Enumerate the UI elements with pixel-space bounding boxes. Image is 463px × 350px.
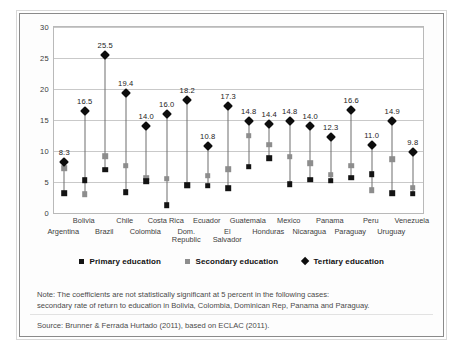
primary-marker bbox=[307, 177, 313, 183]
tertiary-marker bbox=[141, 121, 151, 131]
square-black-icon bbox=[79, 259, 85, 265]
y-tick-label-20: 20 bbox=[40, 85, 49, 94]
gridline-30 bbox=[54, 27, 423, 28]
x-label-mexico: Mexico bbox=[277, 217, 300, 225]
x-label-paraguay: Paraguay bbox=[334, 228, 366, 236]
tertiary-marker bbox=[408, 147, 418, 157]
data-label-tertiary: 14.0 bbox=[302, 112, 318, 121]
data-label-tertiary: 16.6 bbox=[343, 96, 359, 105]
secondary-marker bbox=[82, 192, 88, 198]
data-label-tertiary: 10.8 bbox=[200, 132, 216, 141]
data-label-tertiary: 11.0 bbox=[364, 131, 379, 140]
tertiary-marker bbox=[203, 141, 213, 151]
tertiary-marker bbox=[305, 121, 315, 131]
y-tick-label-30: 30 bbox=[40, 23, 49, 32]
data-label-tertiary: 25.5 bbox=[97, 41, 113, 50]
gridline-25 bbox=[54, 58, 423, 59]
secondary-marker bbox=[389, 156, 395, 162]
chart-source: Source: Brunner & Ferrada Hurtado (2011)… bbox=[37, 320, 429, 331]
tertiary-marker bbox=[223, 101, 233, 111]
x-label-honduras: Honduras bbox=[252, 228, 284, 236]
primary-marker bbox=[369, 171, 375, 177]
stem-line bbox=[125, 93, 126, 192]
stem-line bbox=[146, 126, 147, 181]
primary-marker bbox=[61, 190, 67, 196]
legend-label: Tertiary education bbox=[313, 257, 384, 266]
primary-marker bbox=[266, 156, 272, 162]
stem-line bbox=[207, 146, 208, 186]
x-label-guatemala: Guatemala bbox=[230, 217, 266, 225]
tertiary-marker bbox=[326, 132, 336, 142]
y-tick-label-0: 0 bbox=[45, 209, 49, 218]
primary-marker bbox=[123, 189, 129, 195]
stem-line bbox=[310, 126, 311, 179]
x-label-el-salvador: El Salvador bbox=[210, 228, 244, 245]
data-label-tertiary: 16.5 bbox=[77, 97, 93, 106]
legend-item[interactable]: Primary education bbox=[79, 257, 161, 266]
square-gray-icon bbox=[185, 259, 191, 265]
tertiary-marker bbox=[80, 106, 90, 116]
data-label-tertiary: 14.8 bbox=[282, 107, 298, 116]
legend-item[interactable]: Secondary education bbox=[185, 257, 278, 266]
secondary-marker bbox=[348, 163, 354, 169]
tertiary-marker bbox=[244, 116, 254, 126]
y-tick-label-10: 10 bbox=[40, 147, 49, 156]
y-tick-label-25: 25 bbox=[40, 54, 49, 63]
secondary-marker bbox=[328, 172, 334, 178]
primary-marker bbox=[389, 190, 395, 196]
tertiary-marker bbox=[387, 116, 397, 126]
primary-marker bbox=[328, 178, 334, 184]
stem-line bbox=[371, 145, 372, 190]
stem-line bbox=[187, 100, 188, 185]
primary-marker bbox=[143, 179, 149, 185]
stem-line bbox=[248, 121, 249, 166]
secondary-marker bbox=[225, 166, 231, 172]
x-label-bolivia: Bolivia bbox=[73, 217, 95, 225]
primary-marker bbox=[184, 182, 190, 188]
secondary-marker bbox=[287, 154, 293, 160]
secondary-marker bbox=[307, 161, 313, 167]
x-label-uruguay: Uruguay bbox=[377, 228, 405, 236]
note-line-2: secondary rate of return to education in… bbox=[37, 300, 429, 311]
tertiary-marker bbox=[367, 140, 377, 150]
data-label-tertiary: 8.3 bbox=[59, 148, 70, 157]
data-label-tertiary: 14.9 bbox=[384, 107, 400, 116]
data-label-tertiary: 14.0 bbox=[138, 112, 154, 121]
tertiary-marker bbox=[285, 116, 295, 126]
gridline-20 bbox=[54, 89, 423, 90]
secondary-marker bbox=[123, 163, 129, 169]
legend-item[interactable]: Tertiary education bbox=[302, 257, 384, 266]
gridline-10 bbox=[54, 151, 423, 152]
data-label-tertiary: 14.8 bbox=[241, 107, 257, 116]
gridline-5 bbox=[54, 182, 423, 183]
primary-marker bbox=[102, 167, 108, 173]
primary-marker bbox=[287, 182, 293, 188]
diamond-black-icon bbox=[301, 257, 310, 266]
x-label-brazil: Brazil bbox=[95, 228, 113, 236]
primary-marker bbox=[348, 175, 354, 181]
x-label-colombia: Colombia bbox=[130, 228, 161, 236]
x-label-venezuela: Venezuela bbox=[394, 217, 429, 225]
x-label-ecuador: Ecuador bbox=[193, 217, 221, 225]
tertiary-marker bbox=[182, 95, 192, 105]
x-axis-category-labels: ArgentinaBoliviaBrazilChileColombiaCosta… bbox=[53, 217, 424, 251]
stem-line bbox=[166, 114, 167, 205]
primary-marker bbox=[410, 191, 416, 197]
data-label-tertiary: 18.2 bbox=[179, 86, 195, 95]
x-label-costa-rica: Costa Rica bbox=[148, 217, 184, 225]
primary-marker bbox=[205, 183, 211, 189]
data-label-tertiary: 19.4 bbox=[118, 79, 134, 88]
x-label-dom-republic: Dom. Republic bbox=[169, 228, 203, 245]
chart-legend: Primary educationSecondary educationTert… bbox=[20, 257, 443, 266]
data-label-tertiary: 12.3 bbox=[323, 123, 339, 132]
plot-area: 051015202530 8.316.525.519.414.016.018.2… bbox=[53, 26, 424, 214]
x-label-argentina: Argentina bbox=[47, 228, 79, 236]
secondary-marker bbox=[410, 185, 416, 191]
secondary-marker bbox=[102, 153, 108, 159]
x-label-peru: Peru bbox=[363, 217, 379, 225]
x-label-panama: Panama bbox=[316, 217, 344, 225]
figure-panel: 051015202530 8.316.525.519.414.016.018.2… bbox=[19, 13, 444, 337]
data-label-tertiary: 14.4 bbox=[261, 110, 277, 119]
tertiary-marker bbox=[346, 105, 356, 115]
note-line-1: Note: The coefficients are not statistic… bbox=[37, 289, 429, 300]
